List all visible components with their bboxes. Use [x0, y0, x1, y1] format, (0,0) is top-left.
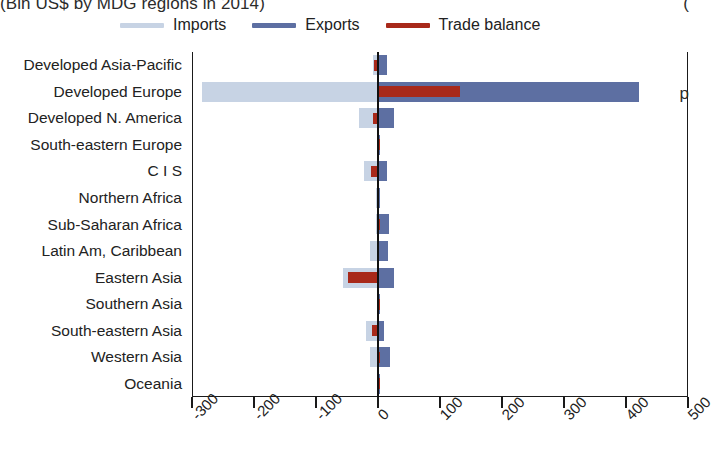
legend-item-exports[interactable]: Exports	[252, 17, 359, 33]
bar-row	[192, 52, 688, 79]
right-margin-fragment: p	[680, 84, 689, 104]
bar-row	[192, 185, 688, 212]
category-label: Sub-Saharan Africa	[48, 217, 182, 233]
zero-line	[377, 52, 379, 397]
bar-row	[192, 105, 688, 132]
category-label: Western Asia	[91, 349, 182, 365]
legend-item-trade-balance[interactable]: Trade balance	[386, 17, 541, 33]
bar-row	[192, 132, 688, 159]
bar-trade-balance[interactable]	[378, 86, 460, 97]
legend-label: Trade balance	[439, 17, 541, 33]
legend-label: Exports	[305, 17, 359, 33]
bar-row	[192, 317, 688, 344]
category-label: Developed Europe	[54, 84, 182, 100]
category-label: Oceania	[124, 376, 182, 392]
category-label: Latin Am, Caribbean	[42, 243, 182, 259]
bar-row	[192, 264, 688, 291]
legend-swatch-icon	[252, 23, 296, 28]
chart-title-right-fragment: (	[683, 0, 689, 14]
category-label: Developed Asia-Pacific	[23, 57, 182, 73]
category-label: South-eastern Asia	[51, 323, 182, 339]
category-label: Northern Africa	[79, 190, 182, 206]
bar-exports[interactable]	[378, 241, 388, 261]
category-label: Southern Asia	[85, 296, 182, 312]
bar-row	[192, 79, 688, 106]
value-axis-tick-label: 0	[374, 405, 392, 423]
category-label: C I S	[148, 163, 182, 179]
chart-title: (Bln US$ by MDG regions in 2014)	[0, 0, 540, 14]
bar-row	[192, 238, 688, 265]
bar-exports[interactable]	[378, 108, 394, 128]
bar-row	[192, 291, 688, 318]
bar-rows	[192, 52, 688, 397]
bar-row	[192, 211, 688, 238]
bar-exports[interactable]	[378, 321, 384, 341]
category-label: Eastern Asia	[95, 270, 182, 286]
category-label: South-eastern Europe	[30, 137, 182, 153]
bar-imports[interactable]	[202, 82, 378, 102]
chart-legend: ImportsExportsTrade balance	[120, 14, 590, 36]
bar-exports[interactable]	[378, 55, 387, 75]
bar-exports[interactable]	[378, 268, 394, 288]
bar-exports[interactable]	[378, 161, 387, 181]
category-axis-labels: Developed Asia-PacificDeveloped EuropeDe…	[0, 52, 186, 397]
legend-swatch-icon	[120, 23, 164, 28]
bar-row	[192, 158, 688, 185]
bar-trade-balance[interactable]	[348, 272, 378, 283]
value-axis-ticks: -300-200-1000100200300400500	[192, 397, 688, 457]
plot-area	[192, 52, 688, 397]
legend-swatch-icon	[386, 23, 430, 28]
legend-label: Imports	[173, 17, 226, 33]
legend-item-imports[interactable]: Imports	[120, 17, 226, 33]
category-label: Developed N. America	[28, 110, 182, 126]
bar-row	[192, 344, 688, 371]
